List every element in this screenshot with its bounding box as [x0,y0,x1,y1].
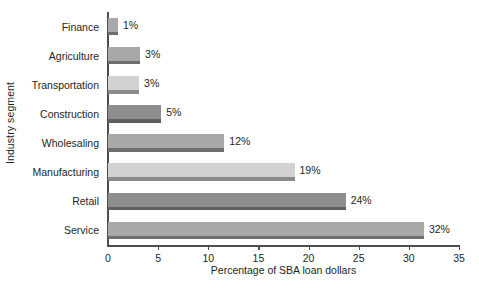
x-axis-tick-label: 20 [303,252,315,264]
bar [108,18,118,32]
y-axis-title-text: Industry segment [4,81,16,163]
bar [108,163,295,177]
bar-value-label: 5% [166,106,181,118]
x-axis-title: Percentage of SBA loan dollars [108,264,459,276]
x-axis-tick-label: 25 [353,252,365,264]
bar-depth-shadow [108,90,139,94]
x-axis-line [107,245,459,247]
bar-row: 5% [108,99,459,128]
bar-body [108,163,295,177]
bar-row: 3% [108,70,459,99]
bar-row: 19% [108,158,459,187]
bar [108,47,140,61]
x-axis-tick-label: 0 [105,252,111,264]
bar-value-label: 19% [300,164,321,176]
x-axis-tick-mark [208,245,209,250]
bar-depth-shadow [108,61,140,65]
x-axis-tick-label: 5 [155,252,161,264]
bar-depth-shadow [108,32,118,36]
bar-body [108,47,140,61]
y-axis-tick-label-text: Wholesaling [42,137,99,149]
bar-value-label: 24% [351,194,372,206]
y-axis-tick-label-text: Finance [62,21,99,33]
bar [108,193,346,207]
bar-row: 1% [108,12,459,41]
x-axis-tick-mark [309,245,310,250]
bar-depth-shadow [108,177,295,181]
y-axis-tick-label-text: Construction [40,108,99,120]
y-axis-tick-label: Service [16,216,104,245]
y-axis-tick-label: Finance [16,12,104,41]
bar-body [108,18,118,32]
y-axis-tick-label: Retail [16,187,104,216]
y-axis-tick-label-text: Transportation [32,79,99,91]
x-axis-tick-label: 15 [253,252,265,264]
bar [108,222,424,236]
x-axis-tick-mark [359,245,360,250]
bar [108,76,139,90]
bar-chart-figure: Industry segment FinanceAgricultureTrans… [0,0,479,288]
bar-body [108,193,346,207]
y-axis-tick-labels: FinanceAgricultureTransportationConstruc… [16,12,104,245]
y-axis-tick-label: Manufacturing [16,158,104,187]
bar-row: 24% [108,187,459,216]
bar-row: 3% [108,41,459,70]
x-axis-tick-label: 10 [202,252,214,264]
bar-row: 12% [108,129,459,158]
bar-depth-shadow [108,236,424,240]
y-axis-tick-label-text: Agriculture [49,50,99,62]
bar-depth-shadow [108,119,161,123]
bar-depth-shadow [108,207,346,211]
plot-area: 1%3%3%5%12%19%24%32%05101520253035 [108,12,459,245]
x-axis-tick-label: 30 [403,252,415,264]
x-axis-tick-mark [459,245,460,250]
y-axis-tick-label-text: Retail [72,195,99,207]
bar-value-label: 1% [123,19,138,31]
bar-body [108,222,424,236]
bar-row: 32% [108,216,459,245]
bar-value-label: 3% [144,77,159,89]
bar-depth-shadow [108,148,224,152]
y-axis-tick-label: Transportation [16,70,104,99]
x-axis-tick-label: 35 [453,252,465,264]
bar-value-label: 3% [145,48,160,60]
bar-body [108,76,139,90]
y-axis-tick-label-text: Manufacturing [32,166,99,178]
x-axis-tick-mark [409,245,410,250]
bar-value-label: 32% [429,223,450,235]
bar-value-label: 12% [229,135,250,147]
bar [108,105,161,119]
bar [108,134,224,148]
y-axis-tick-label: Construction [16,99,104,128]
bar-body [108,105,161,119]
y-axis-tick-label: Agriculture [16,41,104,70]
bar-body [108,134,224,148]
x-axis-tick-mark [258,245,259,250]
x-axis-tick-mark [158,245,159,250]
y-axis-tick-label: Wholesaling [16,129,104,158]
y-axis-tick-label-text: Service [64,224,99,236]
